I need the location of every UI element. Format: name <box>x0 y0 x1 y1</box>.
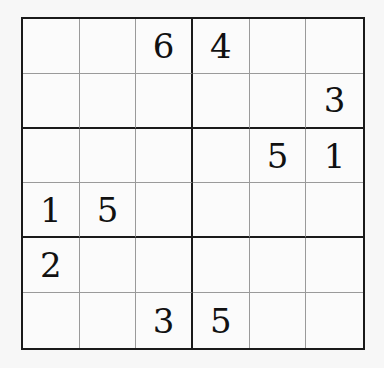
cell-r1-c3[interactable]: 6 <box>136 19 193 74</box>
cell-r4-c3[interactable] <box>136 183 193 238</box>
cell-r5-c5[interactable] <box>250 238 307 293</box>
cell-r6-c6[interactable] <box>306 293 363 348</box>
cell-r1-c6[interactable] <box>306 19 363 74</box>
cell-r1-c5[interactable] <box>250 19 307 74</box>
cell-r3-c1[interactable] <box>23 129 80 184</box>
cell-r2-c2[interactable] <box>80 74 137 129</box>
cell-r1-c1[interactable] <box>23 19 80 74</box>
cell-r4-c5[interactable] <box>250 183 307 238</box>
cell-r5-c6[interactable] <box>306 238 363 293</box>
cell-r3-c5[interactable]: 5 <box>250 129 307 184</box>
cell-r3-c2[interactable] <box>80 129 137 184</box>
cell-r1-c4[interactable]: 4 <box>193 19 250 74</box>
cell-r5-c2[interactable] <box>80 238 137 293</box>
cell-r2-c6[interactable]: 3 <box>306 74 363 129</box>
cell-r6-c1[interactable] <box>23 293 80 348</box>
cell-r5-c4[interactable] <box>193 238 250 293</box>
cell-r4-c6[interactable] <box>306 183 363 238</box>
cell-r4-c2[interactable]: 5 <box>80 183 137 238</box>
cell-r6-c3[interactable]: 3 <box>136 293 193 348</box>
cell-r5-c3[interactable] <box>136 238 193 293</box>
cell-r6-c5[interactable] <box>250 293 307 348</box>
cell-r4-c1[interactable]: 1 <box>23 183 80 238</box>
cell-r2-c4[interactable] <box>193 74 250 129</box>
cell-r4-c4[interactable] <box>193 183 250 238</box>
cell-r3-c4[interactable] <box>193 129 250 184</box>
cell-r1-c2[interactable] <box>80 19 137 74</box>
cell-r2-c3[interactable] <box>136 74 193 129</box>
cell-r3-c6[interactable]: 1 <box>306 129 363 184</box>
cell-r6-c2[interactable] <box>80 293 137 348</box>
cell-r3-c3[interactable] <box>136 129 193 184</box>
cell-r5-c1[interactable]: 2 <box>23 238 80 293</box>
cell-r6-c4[interactable]: 5 <box>193 293 250 348</box>
cell-r2-c1[interactable] <box>23 74 80 129</box>
sudoku-grid: 6435115235 <box>21 17 365 350</box>
cell-r2-c5[interactable] <box>250 74 307 129</box>
